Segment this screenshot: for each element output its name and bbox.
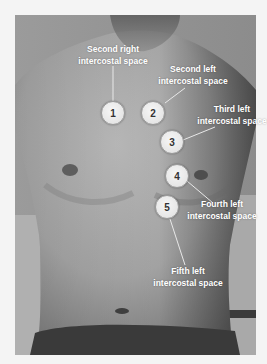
label-third-left-intercostal: Third left intercostal space [197, 104, 266, 127]
marker-1: 1 [101, 101, 125, 125]
label-line1: Second right [78, 44, 147, 56]
marker-2: 2 [141, 101, 165, 125]
label-line1: Third left [197, 104, 266, 116]
label-line1: Fifth left [153, 266, 222, 278]
label-line2: intercostal space [187, 211, 256, 223]
label-second-right-intercostal: Second right intercostal space [78, 44, 147, 67]
marker-5: 5 [155, 195, 179, 219]
marker-3: 3 [160, 130, 184, 154]
label-line2: intercostal space [153, 278, 222, 290]
label-line2: intercostal space [197, 116, 266, 128]
label-fifth-left-intercostal: Fifth left intercostal space [153, 266, 222, 289]
label-line1: Fourth left [187, 199, 256, 211]
label-fourth-left-intercostal: Fourth left intercostal space [187, 199, 256, 222]
label-line2: intercostal space [78, 56, 147, 68]
label-line2: intercostal space [158, 76, 227, 88]
label-line1: Second left [158, 64, 227, 76]
label-second-left-intercostal: Second left intercostal space [158, 64, 227, 87]
marker-4: 4 [165, 164, 189, 188]
